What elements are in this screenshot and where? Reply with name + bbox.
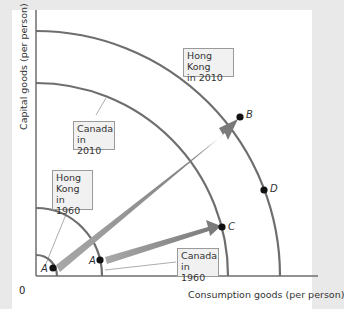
label-canada-1960: Canada in 1960 — [177, 248, 219, 277]
point-d — [260, 186, 267, 193]
point-a-hong-kong — [49, 264, 56, 271]
leader-canada-2010 — [96, 98, 106, 115]
label-hong-kong-1960: Hong Kong in 1960 — [52, 170, 93, 210]
label-canada-2010: Canada in 2010 — [73, 121, 115, 150]
label-point-b: B — [246, 109, 253, 120]
point-b — [236, 113, 243, 120]
origin-label: 0 — [19, 285, 25, 296]
label-point-a-hk: A — [40, 263, 48, 274]
point-a-canada — [96, 256, 103, 263]
label-point-d: D — [270, 183, 278, 194]
point-c — [218, 223, 225, 230]
label-hong-kong-2010: Hong Kong in 2010 — [183, 48, 234, 77]
label-point-c: C — [228, 221, 235, 232]
label-point-a-canada: A — [88, 255, 96, 266]
y-axis-label: Capital goods (per person) — [18, 3, 29, 130]
leader-canada-1960 — [105, 262, 176, 270]
x-axis-label: Consumption goods (per person) — [188, 289, 344, 300]
ppf-hong-kong-2010 — [36, 31, 280, 276]
